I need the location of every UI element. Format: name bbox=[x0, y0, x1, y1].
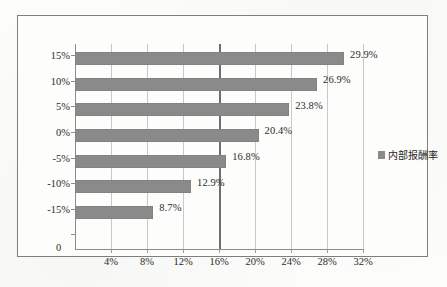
legend-label: 内部报酬率 bbox=[388, 147, 438, 162]
x-axis-tick bbox=[219, 249, 220, 253]
x-axis-tick bbox=[255, 249, 256, 253]
y-axis-tick bbox=[71, 183, 75, 184]
figure-caption bbox=[0, 276, 447, 287]
bar-value-label: 29.9% bbox=[350, 49, 378, 60]
gridline bbox=[363, 44, 364, 249]
bar-row: 26.9% bbox=[75, 72, 363, 98]
y-axis-tick-label: 15% bbox=[24, 50, 70, 61]
x-axis-tick-label: 4% bbox=[104, 256, 118, 267]
y-axis-tick-label: -5% bbox=[24, 153, 70, 164]
y-axis-tick bbox=[71, 106, 75, 107]
y-axis-tick bbox=[71, 55, 75, 56]
y-axis-tick-label: -10% bbox=[24, 178, 70, 189]
y-axis-tick bbox=[71, 234, 75, 235]
x-axis-tick-label: 32% bbox=[353, 256, 372, 267]
y-axis-tick bbox=[71, 158, 75, 159]
bar[interactable] bbox=[75, 206, 153, 219]
x-axis-tick bbox=[291, 249, 292, 253]
x-axis-tick bbox=[327, 249, 328, 253]
y-axis-tick bbox=[71, 209, 75, 210]
x-axis-tick-label: 20% bbox=[245, 256, 264, 267]
bar[interactable] bbox=[75, 78, 317, 91]
chart-legend: 内部报酬率 bbox=[378, 147, 438, 162]
x-axis-tick-label: 8% bbox=[140, 256, 154, 267]
y-axis-tick-label: -15% bbox=[24, 204, 70, 215]
bar-row: 16.8% bbox=[75, 149, 363, 175]
plot-area: 29.9%26.9%23.8%20.4%16.8%12.9%8.7% bbox=[75, 44, 363, 249]
x-axis-tick-label: 12% bbox=[173, 256, 192, 267]
x-axis-tick-label: 24% bbox=[281, 256, 300, 267]
chart-frame: 29.9%26.9%23.8%20.4%16.8%12.9%8.7% 15%10… bbox=[17, 15, 428, 257]
bar-row: 12.9% bbox=[75, 174, 363, 200]
bar[interactable] bbox=[75, 129, 259, 142]
y-axis-tick bbox=[71, 81, 75, 82]
x-axis-tick bbox=[183, 249, 184, 253]
x-axis-tick-label: 28% bbox=[317, 256, 336, 267]
y-axis-tick bbox=[71, 132, 75, 133]
bar-value-label: 23.8% bbox=[295, 100, 323, 111]
bar[interactable] bbox=[75, 155, 226, 168]
bar-value-label: 8.7% bbox=[159, 202, 181, 213]
bar[interactable] bbox=[75, 103, 289, 116]
bar-row: 8.7% bbox=[75, 200, 363, 226]
bar-row: 29.9% bbox=[75, 46, 363, 72]
bar[interactable] bbox=[75, 52, 344, 65]
bar-value-label: 20.4% bbox=[265, 125, 293, 136]
bar-value-label: 16.8% bbox=[232, 151, 260, 162]
y-axis-tick-label: 0% bbox=[24, 127, 70, 138]
y-axis-tick-label: 10% bbox=[24, 76, 70, 87]
bar-row: 20.4% bbox=[75, 123, 363, 149]
x-axis-tick bbox=[111, 249, 112, 253]
bar-value-label: 12.9% bbox=[197, 177, 225, 188]
bar-row: 23.8% bbox=[75, 97, 363, 123]
bar[interactable] bbox=[75, 180, 191, 193]
y-axis-tick-label: 5% bbox=[24, 101, 70, 112]
x-axis-tick bbox=[363, 249, 364, 253]
axis-origin-label: 0 bbox=[56, 242, 61, 253]
bar-value-label: 26.9% bbox=[323, 74, 351, 85]
legend-swatch-icon bbox=[378, 151, 385, 159]
x-axis-tick bbox=[147, 249, 148, 253]
x-axis-tick-label: 16% bbox=[209, 256, 228, 267]
